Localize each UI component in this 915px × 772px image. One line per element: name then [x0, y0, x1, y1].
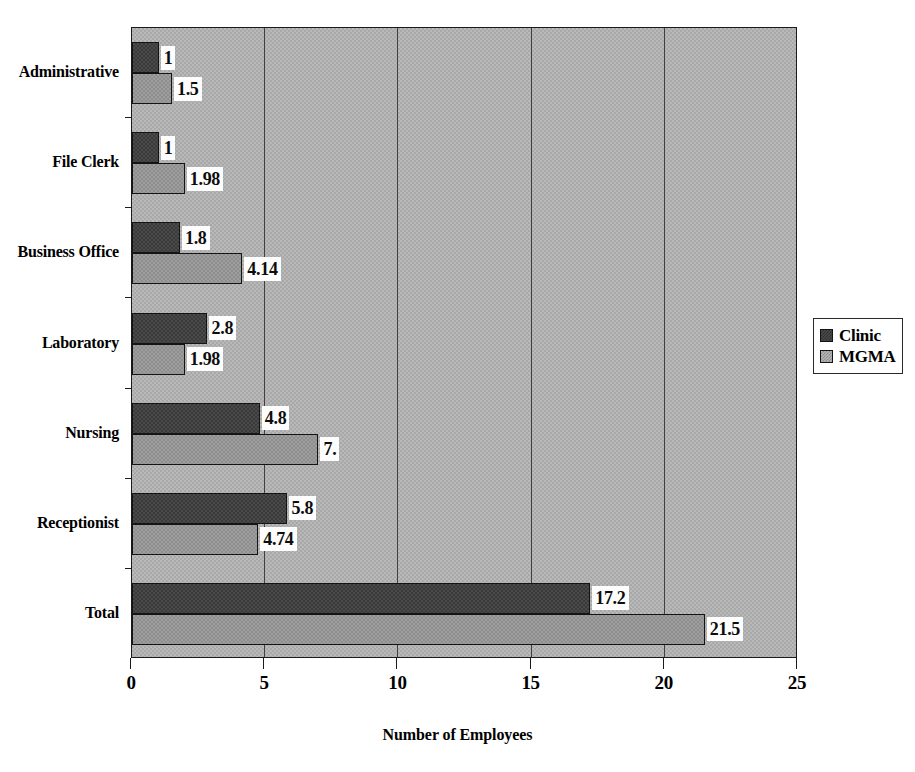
bar-clinic-file-clerk	[132, 132, 159, 163]
x-axis-ticks	[0, 658, 915, 672]
legend: ClinicMGMA	[813, 318, 903, 374]
bar-clinic-nursing	[132, 403, 260, 434]
x-axis-tick	[796, 658, 797, 669]
bar-value-label: 4.14	[244, 257, 280, 281]
bar-mgma-file-clerk	[132, 163, 185, 194]
legend-item-clinic[interactable]: Clinic	[820, 325, 895, 346]
legend-item-label: MGMA	[839, 347, 895, 367]
clinic-swatch-icon	[820, 329, 833, 342]
y-axis-labels: AdministrativeFile ClerkBusiness OfficeL…	[0, 27, 125, 658]
gridline	[264, 28, 265, 657]
bar-value-label: 5.8	[289, 496, 317, 520]
bar-value-label: 4.8	[262, 406, 290, 430]
gridline	[531, 28, 532, 657]
bar-value-label: 17.2	[592, 586, 628, 610]
x-axis-tick-label: 20	[655, 672, 673, 694]
y-axis-category-label: Laboratory	[42, 333, 119, 353]
bar-mgma-laboratory	[132, 344, 185, 375]
bar-mgma-administrative	[132, 73, 172, 104]
bar-mgma-total	[132, 614, 705, 645]
bar-value-label: 1.8	[182, 226, 210, 250]
bar-value-label: 1	[161, 136, 176, 160]
y-axis-category-label: Total	[85, 603, 119, 623]
y-axis-category-label: Administrative	[19, 62, 119, 82]
bar-value-label: 21.5	[707, 617, 743, 641]
x-axis-tick-label: 10	[388, 672, 406, 694]
y-axis-tick	[125, 207, 131, 208]
bar-mgma-receptionist	[132, 524, 258, 555]
bar-clinic-receptionist	[132, 493, 287, 524]
bar-value-label: 1	[161, 46, 176, 70]
plot-area: 11.511.981.84.142.81.984.87.5.84.7417.22…	[131, 27, 797, 658]
bar-chart: AdministrativeFile ClerkBusiness OfficeL…	[0, 0, 915, 772]
x-axis-tick	[130, 658, 131, 669]
bar-clinic-business-office	[132, 222, 180, 253]
gridline	[397, 28, 398, 657]
x-axis-tick-labels: 0510152025	[0, 672, 915, 700]
x-axis-tick-label: 25	[788, 672, 806, 694]
y-axis-tick	[125, 388, 131, 389]
bar-value-label: 1.98	[187, 347, 223, 371]
y-axis-tick	[125, 117, 131, 118]
bar-clinic-laboratory	[132, 313, 207, 344]
bar-value-label: 4.74	[260, 527, 296, 551]
bar-value-label: 1.5	[174, 77, 202, 101]
x-axis-tick-label: 15	[521, 672, 539, 694]
y-axis-category-label: Nursing	[65, 423, 119, 443]
bar-value-label: 2.8	[209, 316, 237, 340]
x-axis-tick	[663, 658, 664, 669]
x-axis-tick-label: 0	[126, 672, 135, 694]
bar-mgma-nursing	[132, 434, 318, 465]
gridline	[664, 28, 665, 657]
bar-clinic-administrative	[132, 42, 159, 73]
chart-title	[0, 0, 915, 5]
bar-clinic-total	[132, 583, 590, 614]
y-axis-tick	[125, 568, 131, 569]
bar-value-label: 7.	[320, 437, 339, 461]
y-axis-category-label: Business Office	[18, 242, 119, 262]
x-axis-title: Number of Employees	[0, 726, 915, 744]
y-axis-tick	[125, 297, 131, 298]
legend-item-label: Clinic	[839, 326, 881, 346]
y-axis-tick	[125, 478, 131, 479]
y-axis-category-label: Receptionist	[37, 513, 119, 533]
bar-mgma-business-office	[132, 253, 242, 284]
bar-value-label: 1.98	[187, 167, 223, 191]
x-axis-tick	[530, 658, 531, 669]
legend-item-mgma[interactable]: MGMA	[820, 346, 895, 367]
x-axis-tick	[396, 658, 397, 669]
x-axis-tick-label: 5	[260, 672, 269, 694]
mgma-swatch-icon	[820, 350, 833, 363]
x-axis-tick	[263, 658, 264, 669]
y-axis-category-label: File Clerk	[52, 152, 119, 172]
